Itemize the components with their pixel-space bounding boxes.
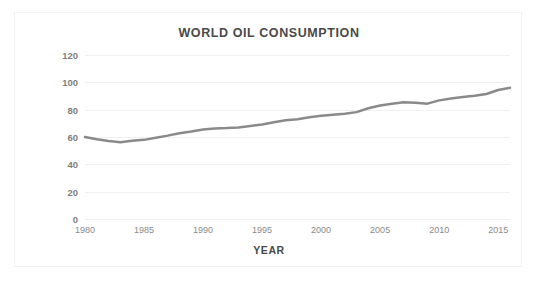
x-tick-label: 2010 bbox=[429, 225, 449, 235]
x-axis-title: YEAR bbox=[0, 244, 538, 256]
x-tick-label: 1990 bbox=[193, 225, 213, 235]
x-tick-label: 2000 bbox=[311, 225, 331, 235]
x-tick-label: 2015 bbox=[488, 225, 508, 235]
x-tick-label: 1980 bbox=[75, 225, 95, 235]
series-polyline bbox=[85, 88, 510, 142]
y-tick-label: 120 bbox=[62, 50, 78, 61]
y-tick-label: 80 bbox=[67, 104, 78, 115]
x-tick-label: 1985 bbox=[134, 225, 154, 235]
x-tick-label: 2005 bbox=[370, 225, 390, 235]
plot-area: 020406080100120 198019851990199520002005… bbox=[85, 55, 510, 219]
chart-figure: WORLD OIL CONSUMPTION MILLON BARRELS OIL… bbox=[0, 0, 538, 286]
line-series-world-oil-consumption bbox=[85, 55, 510, 219]
y-tick-label: 40 bbox=[67, 159, 78, 170]
y-tick-label: 20 bbox=[67, 186, 78, 197]
chart-title: WORLD OIL CONSUMPTION bbox=[0, 26, 538, 40]
gridline bbox=[85, 219, 510, 220]
y-tick-label: 0 bbox=[73, 214, 78, 225]
y-tick-label: 100 bbox=[62, 77, 78, 88]
x-tick-label: 1995 bbox=[252, 225, 272, 235]
y-tick-label: 60 bbox=[67, 132, 78, 143]
